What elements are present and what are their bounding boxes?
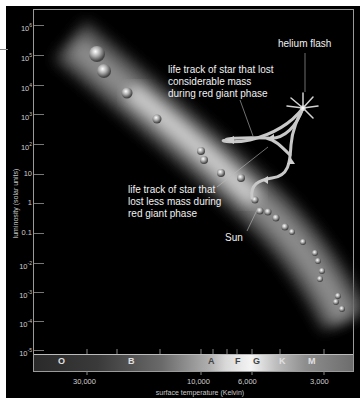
spectral-class-m: M xyxy=(308,356,316,366)
y-tick-mark xyxy=(34,114,44,115)
y-tick-base: 10 xyxy=(21,84,29,93)
y-tick-mark xyxy=(34,85,44,86)
y-tick-label: 106 xyxy=(4,21,32,33)
y-tick-exponent: -4 xyxy=(28,318,32,324)
spectral-class-bar xyxy=(34,354,353,371)
y-tick-label: 104 xyxy=(4,81,32,93)
y-tick-base: 10 xyxy=(24,169,32,178)
y-tick-exponent: -5 xyxy=(28,347,32,353)
spectral-class-b: B xyxy=(128,356,135,366)
y-tick-mark xyxy=(34,203,44,204)
y-tick-label: 103 xyxy=(4,110,32,122)
spectral-class-f: F xyxy=(235,356,241,366)
y-tick-mark xyxy=(34,144,44,145)
y-tick-exponent: 5 xyxy=(29,52,32,58)
y-tick-mark xyxy=(34,233,44,234)
y-tick-base: 10 xyxy=(19,320,27,329)
y-tick-base: 10 xyxy=(21,113,29,122)
y-tick-exponent: 6 xyxy=(29,22,32,28)
y-tick-mark xyxy=(34,55,44,56)
x-tick-label: 10,000 xyxy=(187,377,210,386)
y-tick-base: 10 xyxy=(19,349,27,358)
helium-flash-label: helium flash xyxy=(278,38,331,50)
y-tick-base: 10 xyxy=(21,143,29,152)
y-tick-base: 1 xyxy=(28,198,32,207)
spectral-class-k: K xyxy=(279,356,286,366)
y-axis-label: luminosity (solar units) xyxy=(12,149,19,259)
y-tick-label: 105 xyxy=(4,51,32,63)
x-tick-label: 6,000 xyxy=(238,377,257,386)
y-tick-mark xyxy=(34,321,44,322)
y-tick-mark xyxy=(34,292,44,293)
y-tick-base: 10 xyxy=(21,24,29,33)
y-tick-label: 10-5 xyxy=(4,346,32,358)
y-tick-mark xyxy=(34,25,44,26)
y-tick-mark xyxy=(34,263,44,264)
y-tick-exponent: 3 xyxy=(29,111,32,117)
y-tick-exponent: 4 xyxy=(29,82,32,88)
y-tick-mark xyxy=(34,350,44,351)
y-tick-label: 10-2 xyxy=(4,259,32,271)
y-tick-exponent: -2 xyxy=(28,260,32,266)
y-tick-exponent: -3 xyxy=(28,289,32,295)
sun-label: Sun xyxy=(225,232,243,244)
helium-flash-burst xyxy=(287,93,318,118)
y-tick-exponent: 2 xyxy=(29,141,32,147)
y-tick-label: 10-4 xyxy=(4,317,32,329)
x-tick-label: 30,000 xyxy=(73,377,96,386)
x-tick-label: 3,000 xyxy=(310,377,329,386)
spectral-class-a: A xyxy=(208,356,215,366)
y-tick-base: 0.1 xyxy=(22,228,32,237)
less-mass-track-label: life track of star that lost less mass d… xyxy=(128,184,221,220)
y-tick-label: 10-3 xyxy=(4,288,32,300)
spectral-class-o: O xyxy=(58,356,65,366)
considerable-mass-track-label: life track of star that lost considerabl… xyxy=(168,64,274,100)
y-tick-base: 10 xyxy=(19,262,27,271)
y-tick-base: 10 xyxy=(19,291,27,300)
y-tick-base: 10 xyxy=(21,54,29,63)
spectral-class-g: G xyxy=(253,356,260,366)
y-tick-mark xyxy=(34,174,44,175)
x-axis-label: surface temperature (Kelvin) xyxy=(0,389,360,396)
